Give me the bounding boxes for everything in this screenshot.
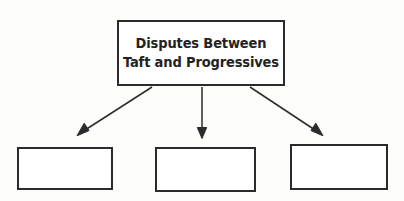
root-node-label: Disputes Between Taft and Progressives <box>123 34 279 71</box>
arrow-left <box>77 87 152 136</box>
child-node-2[interactable] <box>155 147 256 192</box>
root-node-label-line-1: Disputes Between <box>123 34 279 53</box>
diagram-canvas: Disputes Between Taft and Progressives <box>0 0 404 201</box>
root-node-label-line-2: Taft and Progressives <box>123 53 279 72</box>
child-node-3[interactable] <box>290 144 388 190</box>
arrow-center <box>197 87 206 139</box>
root-node-disputes: Disputes Between Taft and Progressives <box>117 20 285 86</box>
arrow-right <box>250 87 323 136</box>
child-node-1[interactable] <box>17 147 113 190</box>
